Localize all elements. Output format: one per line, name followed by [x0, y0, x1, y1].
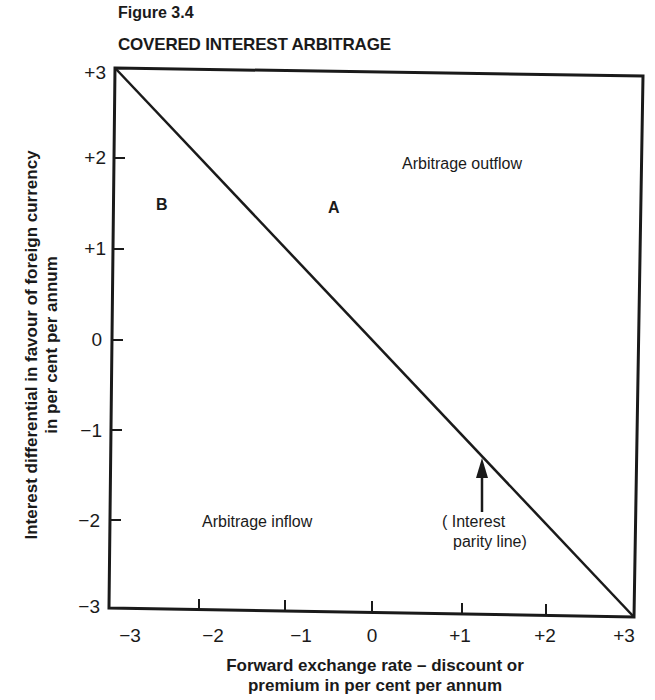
y-tick-label: +2 [62, 147, 106, 169]
y-tick-label: −2 [56, 510, 100, 532]
y-tick-label: −1 [58, 420, 102, 442]
y-axis-label-line2: in per cent per annum [42, 105, 62, 585]
y-axis-label-line1: Interest differential in favour of forei… [22, 105, 42, 585]
parity-line-annotation: ( Interest parity line) [442, 512, 527, 552]
interest-parity-line [116, 69, 633, 616]
y-tick-label: −3 [56, 596, 100, 618]
x-tick-label: +3 [604, 625, 644, 647]
x-axis-label: Forward exchange rate – discount or prem… [165, 656, 585, 696]
region-label-inflow: Arbitrage inflow [202, 513, 312, 531]
y-axis-label: Interest differential in favour of forei… [22, 105, 62, 585]
x-tick-label: +2 [525, 625, 565, 647]
parity-annotation-line1: ( Interest [442, 512, 527, 532]
region-label-outflow: Arbitrage outflow [402, 155, 522, 173]
x-tick-label: −2 [193, 625, 233, 647]
x-axis-label-line2: premium in per cent per annum [165, 676, 585, 696]
parity-line-arrow [476, 458, 488, 512]
point-label-b: B [156, 196, 168, 214]
x-tick-label: −1 [281, 625, 321, 647]
x-tick-label: −3 [110, 625, 150, 647]
x-axis-label-line1: Forward exchange rate – discount or [165, 656, 585, 676]
y-tick-label: +1 [62, 238, 106, 260]
y-tick-label: +3 [62, 62, 106, 84]
x-tick-label: +1 [440, 625, 480, 647]
point-label-a: A [328, 199, 340, 217]
parity-annotation-line2: parity line) [442, 532, 527, 552]
y-tick-label: 0 [58, 329, 102, 351]
x-tick-label: 0 [352, 625, 392, 647]
